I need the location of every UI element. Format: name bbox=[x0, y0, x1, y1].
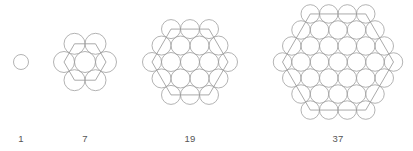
packing-circle bbox=[347, 21, 366, 40]
packing-group-7 bbox=[54, 33, 117, 90]
packing-circle bbox=[347, 53, 366, 72]
packing-circle bbox=[301, 37, 320, 56]
packing-circle bbox=[75, 52, 96, 73]
packing-circle bbox=[190, 69, 209, 88]
packing-circle bbox=[329, 85, 348, 104]
hex-packing-canvas bbox=[0, 0, 413, 151]
packing-circle bbox=[200, 53, 219, 72]
packing-circle bbox=[310, 53, 329, 72]
packing-circle bbox=[14, 55, 29, 70]
packing-circle bbox=[171, 69, 190, 88]
packing-circle bbox=[301, 69, 320, 88]
packing-circle bbox=[357, 69, 376, 88]
packing-circle bbox=[292, 53, 311, 72]
hexagon-outline bbox=[64, 44, 106, 80]
packing-circle bbox=[366, 53, 385, 72]
packing-circle bbox=[181, 53, 200, 72]
packing-circle bbox=[162, 53, 181, 72]
hex-packing-figure bbox=[0, 0, 413, 151]
packing-group-19 bbox=[143, 20, 238, 105]
packing-circle bbox=[320, 37, 339, 56]
packing-circle bbox=[190, 36, 209, 55]
packing-circle bbox=[338, 69, 357, 88]
packing-circle bbox=[329, 21, 348, 40]
packing-circle bbox=[310, 85, 329, 104]
packing-groups bbox=[14, 5, 403, 120]
packing-circle bbox=[320, 69, 339, 88]
packing-circle bbox=[310, 21, 329, 40]
hexagon-outline bbox=[283, 14, 394, 110]
packing-circle bbox=[171, 36, 190, 55]
packing-circle bbox=[329, 53, 348, 72]
packing-circle bbox=[347, 85, 366, 104]
packing-circle bbox=[338, 37, 357, 56]
packing-circle bbox=[357, 37, 376, 56]
packing-group-1 bbox=[14, 55, 29, 70]
packing-group-37 bbox=[273, 5, 403, 120]
